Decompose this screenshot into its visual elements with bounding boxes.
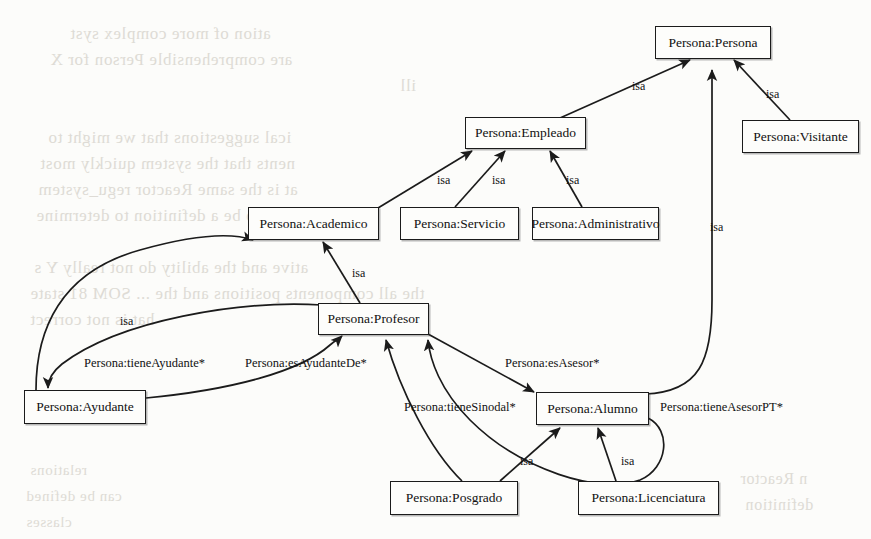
node-alumno[interactable]: Persona:Alumno [536,392,649,425]
node-persona[interactable]: Persona:Persona [655,26,771,59]
edge-label-isa-administrativo: isa [566,174,579,186]
edge-empleado-isa-persona [560,60,690,118]
node-label-profesor: Persona:Profesor [321,312,425,326]
node-ayudante[interactable]: Persona:Ayudante [24,390,146,424]
edge-label-isa-empleado: isa [632,80,645,92]
node-label-persona: Persona:Persona [662,36,763,50]
edge-visitante-isa-persona [734,60,790,120]
node-visitante[interactable]: Persona:Visitante [742,120,859,153]
edge-label-isa-servicio: isa [492,174,505,186]
edge-layer [0,0,871,539]
edge-label-isa-visitante: isa [766,88,779,100]
node-label-alumno: Persona:Alumno [541,402,644,416]
edge-label-isa-academico: isa [437,174,450,186]
edge-academico-isa-empleado [378,151,472,208]
node-label-visitante: Persona:Visitante [747,130,853,144]
node-label-licenciatura: Persona:Licenciatura [586,491,712,505]
node-licenciatura[interactable]: Persona:Licenciatura [578,481,719,515]
node-posgrado[interactable]: Persona:Posgrado [390,481,518,515]
edge-label-isa-profesor: isa [352,267,365,279]
node-label-servicio: Persona:Servicio [408,217,511,231]
edge-label-tieneAsesorPT: Persona:tieneAsesorPT* [660,401,783,414]
node-label-ayudante: Persona:Ayudante [30,400,140,414]
edge-label-tieneSinodal: Persona:tieneSinodal* [404,401,516,414]
node-label-administrativo: Persona:Administrativo [525,217,665,231]
node-empleado[interactable]: Persona:Empleado [465,117,586,149]
edge-profesor-tieneAyudante-ayudante [48,304,322,388]
node-servicio[interactable]: Persona:Servicio [400,207,519,240]
node-label-posgrado: Persona:Posgrado [400,491,509,505]
edge-label-isa-ayudante: isa [120,315,133,327]
node-profesor[interactable]: Persona:Profesor [318,303,429,335]
edge-label-esAyudanteDe: Persona:esAyudanteDe* [245,357,367,370]
node-administrativo[interactable]: Persona:Administrativo [532,207,659,240]
node-label-academico: Persona:Academico [254,217,374,231]
edge-label-esAsesor: Persona:esAsesor* [505,357,599,370]
node-academico[interactable]: Persona:Academico [248,207,379,240]
edge-licenciatura-isa-alumno [598,428,616,481]
edge-label-isa-licenciatura: isa [621,455,634,467]
edge-label-isa-posgrado: isa [520,455,533,467]
edge-label-isa-alumno-persona: isa [710,221,723,233]
edge-label-tieneAyudante: Persona:tieneAyudante* [84,357,205,370]
node-label-empleado: Persona:Empleado [469,126,582,140]
diagram-canvas: ation of more complex systare comprehens… [0,0,871,539]
